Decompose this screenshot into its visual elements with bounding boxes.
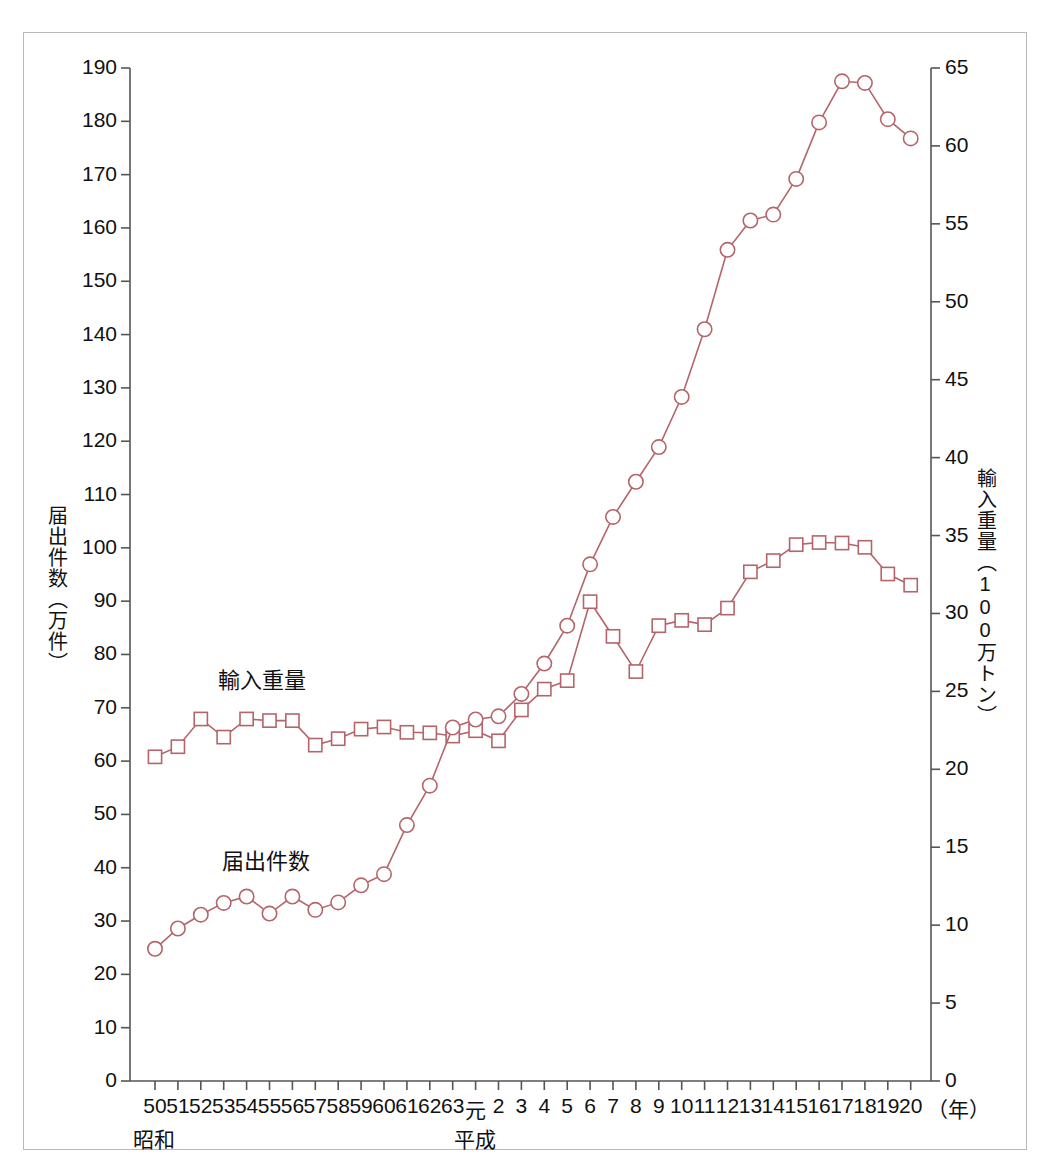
left-tick-label: 120 [55, 428, 117, 452]
data-point-square[interactable] [790, 538, 803, 551]
right-tick-label: 30 [945, 600, 995, 624]
data-point-circle[interactable] [148, 942, 162, 956]
left-tick-label: 170 [55, 162, 117, 186]
data-point-square[interactable] [309, 739, 322, 752]
data-point-circle[interactable] [789, 172, 803, 186]
left-tick-label: 80 [55, 641, 117, 665]
left-tick-label: 10 [55, 1015, 117, 1039]
data-point-circle[interactable] [331, 895, 345, 909]
right-tick-label: 15 [945, 834, 995, 858]
data-point-circle[interactable] [171, 921, 185, 935]
data-point-square[interactable] [561, 674, 574, 687]
data-point-square[interactable] [355, 723, 368, 736]
data-point-circle[interactable] [354, 878, 368, 892]
data-point-circle[interactable] [720, 243, 734, 257]
data-point-circle[interactable] [217, 896, 231, 910]
left-tick-label: 190 [55, 55, 117, 79]
data-point-circle[interactable] [491, 709, 505, 723]
data-point-square[interactable] [263, 714, 276, 727]
right-tick-label: 55 [945, 211, 995, 235]
right-tick-label: 5 [945, 990, 995, 1014]
right-tick-label: 0 [945, 1068, 995, 1092]
left-tick-label: 30 [55, 908, 117, 932]
data-point-square[interactable] [240, 712, 253, 725]
data-point-square[interactable] [721, 601, 734, 614]
data-point-circle[interactable] [629, 475, 643, 489]
data-point-circle[interactable] [675, 390, 689, 404]
right-tick-label: 35 [945, 523, 995, 547]
data-point-circle[interactable] [423, 778, 437, 792]
data-point-square[interactable] [538, 683, 551, 696]
data-point-square[interactable] [881, 567, 894, 580]
data-point-circle[interactable] [400, 818, 414, 832]
data-point-circle[interactable] [194, 907, 208, 921]
left-tick-label: 20 [55, 961, 117, 985]
data-point-square[interactable] [377, 720, 390, 733]
data-point-circle[interactable] [697, 322, 711, 336]
data-point-square[interactable] [171, 740, 184, 753]
data-point-square[interactable] [698, 618, 711, 631]
data-point-circle[interactable] [743, 213, 757, 227]
data-point-square[interactable] [858, 541, 871, 554]
right-tick-label: 20 [945, 756, 995, 780]
series-label-notifications: 届出件数 [222, 843, 310, 875]
data-point-square[interactable] [675, 614, 688, 627]
data-point-square[interactable] [767, 554, 780, 567]
chart-canvas [0, 0, 1041, 1174]
data-point-circle[interactable] [514, 687, 528, 701]
data-point-circle[interactable] [606, 510, 620, 524]
data-point-circle[interactable] [881, 112, 895, 126]
right-tick-label: 40 [945, 445, 995, 469]
data-point-square[interactable] [286, 714, 299, 727]
data-point-square[interactable] [584, 595, 597, 608]
right-tick-label: 60 [945, 133, 995, 157]
data-point-square[interactable] [217, 731, 230, 744]
data-point-square[interactable] [835, 536, 848, 549]
left-tick-label: 160 [55, 215, 117, 239]
series-label-import-weight: 輸入重量 [218, 662, 306, 694]
data-point-circle[interactable] [377, 867, 391, 881]
data-point-circle[interactable] [468, 712, 482, 726]
chart-page: 届出件数（万件） 輸入重量（100万トン） 輸入重量 届出件数 （年） 0102… [0, 0, 1041, 1174]
data-point-square[interactable] [606, 630, 619, 643]
data-point-circle[interactable] [308, 903, 322, 917]
right-tick-label: 45 [945, 367, 995, 391]
data-point-square[interactable] [492, 734, 505, 747]
data-point-circle[interactable] [583, 557, 597, 571]
data-point-circle[interactable] [446, 720, 460, 734]
data-point-circle[interactable] [652, 440, 666, 454]
left-tick-label: 130 [55, 375, 117, 399]
data-point-square[interactable] [813, 536, 826, 549]
data-point-square[interactable] [148, 750, 161, 763]
data-point-circle[interactable] [285, 889, 299, 903]
data-point-circle[interactable] [835, 74, 849, 88]
x-axis-era-label: 昭和 [133, 1123, 175, 1153]
x-axis-unit-label: （年） [927, 1093, 990, 1123]
right-tick-label: 50 [945, 289, 995, 313]
left-tick-label: 150 [55, 268, 117, 292]
left-tick-label: 140 [55, 322, 117, 346]
data-point-square[interactable] [194, 712, 207, 725]
data-point-circle[interactable] [239, 889, 253, 903]
left-tick-label: 60 [55, 748, 117, 772]
data-point-square[interactable] [629, 665, 642, 678]
data-point-square[interactable] [515, 703, 528, 716]
data-point-square[interactable] [332, 732, 345, 745]
left-tick-label: 100 [55, 535, 117, 559]
left-tick-label: 40 [55, 855, 117, 879]
data-point-square[interactable] [400, 726, 413, 739]
data-point-circle[interactable] [262, 906, 276, 920]
data-point-square[interactable] [652, 619, 665, 632]
data-point-square[interactable] [904, 579, 917, 592]
data-point-circle[interactable] [537, 656, 551, 670]
data-point-circle[interactable] [858, 76, 872, 90]
data-point-circle[interactable] [904, 131, 918, 145]
plot-area [0, 0, 1041, 1174]
data-point-circle[interactable] [766, 207, 780, 221]
data-point-circle[interactable] [560, 618, 574, 632]
x-axis-era-label: 平成 [454, 1123, 496, 1153]
x-tick-label: 20 [893, 1094, 929, 1118]
data-point-square[interactable] [423, 726, 436, 739]
data-point-square[interactable] [744, 565, 757, 578]
data-point-circle[interactable] [812, 115, 826, 129]
